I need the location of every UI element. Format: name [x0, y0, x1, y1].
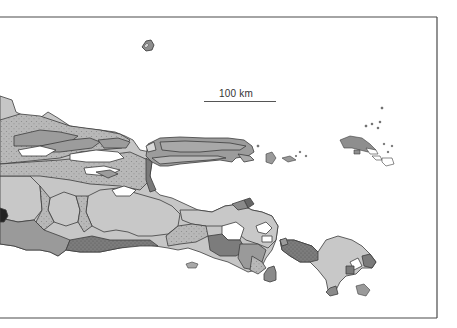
nusa-penida-island [356, 284, 370, 296]
scale-bar-label: 100 km [219, 88, 253, 99]
madura-island [146, 137, 254, 166]
islets-madura-east [257, 145, 307, 164]
small-island-south [186, 262, 198, 268]
kangean-islands [340, 107, 394, 166]
bawean-island [142, 40, 154, 51]
east-java-landmass [0, 96, 278, 282]
geological-map [0, 0, 457, 328]
scale-bar [204, 101, 276, 102]
